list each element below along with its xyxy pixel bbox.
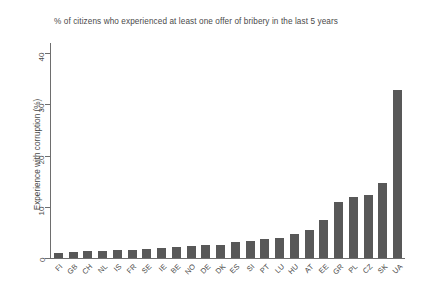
bar (260, 239, 269, 258)
y-tick-label: 40 (38, 53, 47, 62)
x-tick-label: EE (317, 262, 330, 275)
y-tick-label: 10 (38, 206, 47, 215)
x-axis-line (50, 258, 405, 259)
x-tick-label: FR (125, 262, 138, 275)
y-tick-label-wrap: 0 (24, 253, 42, 263)
bar (364, 195, 373, 258)
x-tick-label: NO (183, 262, 197, 276)
bar-slot (246, 43, 255, 258)
bar (172, 247, 181, 258)
bar (349, 197, 358, 258)
bar (187, 246, 196, 258)
x-tick-label: SI (245, 262, 256, 273)
x-tick-label: UA (390, 262, 404, 276)
bar-slot (69, 43, 78, 258)
chart-title: % of citizens who experienced at least o… (54, 17, 404, 27)
bar (83, 251, 92, 258)
bar (378, 183, 387, 258)
y-tick-label: 0 (38, 258, 47, 262)
y-tick-label-wrap: 30 (24, 99, 42, 109)
x-tick-label: BE (169, 262, 182, 275)
bar (231, 242, 240, 258)
x-tick-label: LU (273, 262, 286, 275)
bar (142, 249, 151, 258)
bar-slot (83, 43, 92, 258)
bar (319, 220, 328, 258)
x-tick-label: DE (198, 262, 212, 276)
bar-slot (378, 43, 387, 258)
bar-slot (172, 43, 181, 258)
bar-slot (142, 43, 151, 258)
x-tick-label: PL (347, 262, 360, 275)
bar-chart-figure: % of citizens who experienced at least o… (0, 0, 422, 298)
x-tick-label: DK (213, 262, 227, 276)
bar-slot (157, 43, 166, 258)
bar-slot (260, 43, 269, 258)
bar (98, 251, 107, 258)
bar-slot (54, 43, 63, 258)
bar-slot (393, 43, 402, 258)
bar (290, 234, 299, 258)
x-tick-label: CH (80, 262, 94, 276)
y-tick-label: 20 (38, 155, 47, 164)
bar (157, 248, 166, 258)
x-tick-label: PT (258, 262, 271, 275)
x-tick-label: NL (96, 262, 109, 275)
bar (69, 252, 78, 258)
bar (201, 245, 210, 258)
bar-slot (98, 43, 107, 258)
bar (113, 250, 122, 258)
x-tick-label: IS (112, 262, 123, 273)
y-tick-label-wrap: 20 (24, 151, 42, 161)
bar-slot (128, 43, 137, 258)
bar-slot (349, 43, 358, 258)
y-tick-label: 30 (38, 104, 47, 113)
bar-slot (187, 43, 196, 258)
bar-slot (216, 43, 225, 258)
bar-slot (334, 43, 343, 258)
bar-slot (113, 43, 122, 258)
y-tick-label-wrap: 40 (24, 48, 42, 58)
bar (275, 238, 284, 258)
y-tick-label-wrap: 10 (24, 202, 42, 212)
x-tick-label: FI (54, 262, 65, 273)
x-tick-label: AT (303, 262, 316, 275)
x-tick-label: GB (65, 262, 79, 276)
bar-slot (290, 43, 299, 258)
bar-slot (319, 43, 328, 258)
bar-slot (201, 43, 210, 258)
bar (246, 241, 255, 258)
bar-slot (231, 43, 240, 258)
x-tick-label: IE (157, 262, 168, 273)
bar (128, 250, 137, 258)
x-tick-label: GR (331, 262, 345, 276)
x-tick-label: HU (287, 262, 301, 276)
plot-area (51, 43, 405, 258)
bar-slot (364, 43, 373, 258)
bar (334, 202, 343, 258)
x-tick-label: SK (376, 262, 389, 275)
bar-slot (305, 43, 314, 258)
x-tick-label: SE (140, 262, 153, 275)
bar-slot (275, 43, 284, 258)
bar (216, 245, 225, 258)
x-tick-label: ES (228, 262, 241, 275)
x-tick-label: CZ (361, 262, 374, 275)
bar (54, 253, 63, 258)
bar (393, 90, 402, 258)
bar (305, 230, 314, 258)
